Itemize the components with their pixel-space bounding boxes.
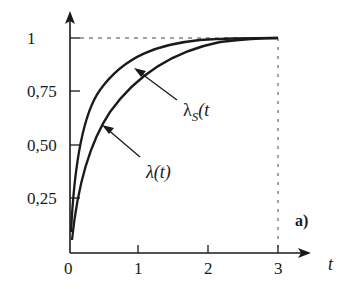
x-axis-label: t [328,255,333,273]
y-tick-label-1: 1 [27,30,36,47]
arrow-lambda-s [134,68,177,100]
y-tick-label-050: 0,50 [27,137,57,154]
x-ticks [138,245,278,253]
x-tick-label-1: 1 [134,260,143,277]
label-lambda-s-arg: (t [198,100,209,120]
x-tick-label-2: 2 [204,260,213,277]
curve-lambda [72,38,278,240]
label-lambda-s: λS(t [183,101,209,123]
y-tick-label-075: 0,75 [27,83,57,100]
label-lambda: λ(t) [146,163,171,181]
arrow-lambda [102,125,140,157]
y-tick-label-025: 0,25 [27,190,57,207]
label-lambda-s-symbol: λ [183,100,192,120]
curve-lambda-s [71,38,278,232]
x-tick-label-0: 0 [64,260,73,277]
x-tick-label-3: 3 [274,260,283,277]
panel-label: a) [295,213,308,229]
